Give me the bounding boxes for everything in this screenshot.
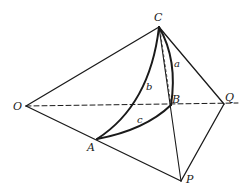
label-arc-c: c (137, 114, 143, 125)
spherical-triangle-diagram: C O Q B A P a b c (0, 0, 244, 193)
label-B: B (171, 93, 180, 106)
label-arc-b: b (146, 81, 152, 92)
label-arc-a: a (174, 58, 180, 69)
edge-QP (181, 104, 224, 181)
label-P: P (185, 173, 194, 186)
label-O: O (13, 100, 22, 113)
arc-c (97, 105, 171, 139)
label-Q: Q (225, 91, 234, 104)
edge-OP (26, 106, 181, 181)
label-A: A (86, 141, 95, 154)
label-C: C (154, 11, 163, 24)
